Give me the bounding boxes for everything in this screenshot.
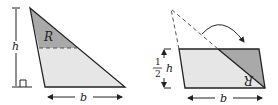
right-parallelogram: R 1 2 h b (153, 9, 265, 105)
left-triangle: R h b (11, 8, 125, 104)
base-label-right: b (220, 92, 227, 105)
height-fraction-num: 1 (155, 57, 161, 67)
height-fraction-den: 2 (155, 69, 161, 79)
height-label-left: h (12, 40, 19, 53)
right-angle-icon (20, 80, 26, 87)
region-label-left: R (43, 30, 53, 44)
rotate-arrow-icon (202, 25, 244, 42)
height-label-right: h (166, 62, 173, 75)
region-label-right: R (244, 73, 254, 87)
triangle-to-parallelogram-diagram: R h b R 1 2 h b (0, 0, 278, 105)
base-label-left: b (80, 91, 87, 104)
original-triangle-dashed (171, 9, 218, 49)
